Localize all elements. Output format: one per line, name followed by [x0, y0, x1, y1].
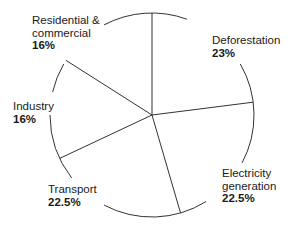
label-deforestation-line1: Deforestation: [212, 34, 280, 47]
label-deforestation: Deforestation 23%: [212, 34, 280, 59]
pie-outline-arc: [240, 64, 254, 163]
label-transport-pct: 22.5%: [48, 196, 97, 209]
slice-divider: [60, 115, 152, 158]
label-transport: Transport 22.5%: [48, 183, 97, 208]
slice-divider: [66, 60, 152, 115]
label-electricity-line2: generation: [222, 180, 276, 193]
slice-divider: [152, 102, 253, 115]
label-residential-line2: commercial: [32, 27, 100, 40]
slice-divider: [152, 115, 181, 213]
pie-outline-arc: [53, 64, 64, 92]
label-electricity-pct: 22.5%: [222, 192, 276, 205]
pie-outline-arc: [104, 13, 187, 25]
label-industry: Industry 16%: [13, 100, 54, 125]
label-residential-line1: Residential &: [32, 14, 100, 27]
label-residential-pct: 16%: [32, 39, 100, 52]
label-industry-line1: Industry: [13, 100, 54, 113]
label-residential: Residential & commercial 16%: [32, 14, 100, 52]
label-electricity: Electricity generation 22.5%: [222, 167, 276, 205]
label-deforestation-pct: 23%: [212, 47, 280, 60]
label-industry-pct: 16%: [13, 113, 54, 126]
label-electricity-line1: Electricity: [222, 167, 276, 180]
pie-outline-arc: [104, 202, 206, 218]
label-transport-line1: Transport: [48, 183, 97, 196]
